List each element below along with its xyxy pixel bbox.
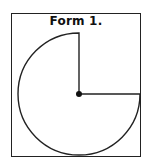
sector-diagram (0, 0, 146, 165)
center-dot (76, 91, 82, 97)
